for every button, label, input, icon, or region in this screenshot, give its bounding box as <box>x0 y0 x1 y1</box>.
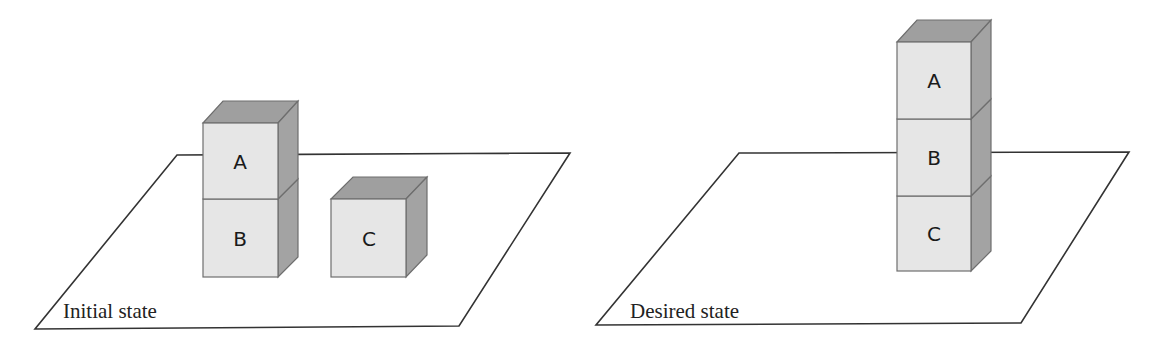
initial-state-scene: B A C Initial state <box>35 101 570 329</box>
block-label: A <box>233 150 247 174</box>
blocks-world-diagram: B A C Initial state C B <box>0 0 1164 346</box>
block-label: B <box>927 146 941 170</box>
desired-state-scene: C B A Desired state <box>596 20 1129 325</box>
block-a-desired: A <box>897 20 991 119</box>
initial-state-caption: Initial state <box>63 299 157 323</box>
block-label: A <box>927 69 941 93</box>
block-label: C <box>927 222 941 246</box>
block-c-initial: C <box>331 177 427 277</box>
block-label: C <box>362 227 376 251</box>
block-label: B <box>233 227 247 251</box>
desired-state-caption: Desired state <box>630 299 739 323</box>
block-a-initial: A <box>203 101 298 199</box>
